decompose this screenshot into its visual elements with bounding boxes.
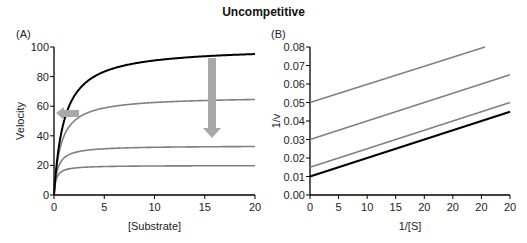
x-axis-label: 1/[S]: [399, 220, 422, 232]
x-tick-label: 20: [249, 201, 261, 213]
x-tick-label: 15: [199, 201, 211, 213]
y-tick-label: 100: [31, 41, 49, 53]
chart-canvas: 02040608010005101520[Substrate]Velocity …: [0, 0, 527, 243]
x-tick-label: 0: [51, 201, 57, 213]
arrow-down-icon: [203, 58, 221, 138]
panel-a-chart: 02040608010005101520[Substrate]Velocity: [14, 41, 261, 232]
y-tick-label: 40: [37, 130, 49, 142]
y-tick-label: 0.04: [284, 115, 305, 127]
y-tick-label: 0.02: [284, 152, 305, 164]
y-tick-label: 0.07: [284, 60, 305, 72]
x-tick-label: 10: [361, 201, 373, 213]
y-tick-label: 20: [37, 159, 49, 171]
y-tick-label: 0.06: [284, 78, 305, 90]
y-tick-label: 0.08: [284, 41, 305, 53]
y-tick-label: 0.00: [284, 189, 305, 201]
panel-b-chart: 0.000.010.020.030.040.050.060.070.080510…: [270, 41, 516, 232]
y-axis-label: 1/v: [270, 113, 282, 128]
series-line: [310, 47, 485, 103]
series-line: [310, 75, 510, 140]
y-axis-label: Velocity: [14, 102, 26, 140]
series-line: [310, 103, 510, 168]
x-tick-label: 5: [336, 201, 342, 213]
y-tick-label: 80: [37, 71, 49, 83]
series-line: [54, 54, 255, 195]
y-tick-label: 0.01: [284, 171, 305, 183]
x-tick-label: 20: [418, 201, 430, 213]
y-tick-label: 0: [43, 189, 49, 201]
x-tick-label: 15: [390, 201, 402, 213]
x-tick-label: 20: [447, 201, 459, 213]
series-line: [310, 112, 510, 177]
x-tick-label: 0: [307, 201, 313, 213]
x-axis-label: [Substrate]: [128, 220, 181, 232]
y-tick-label: 60: [37, 100, 49, 112]
y-tick-label: 0.05: [284, 97, 305, 109]
x-tick-label: 20: [504, 201, 516, 213]
x-tick-label: 5: [101, 201, 107, 213]
x-tick-label: 10: [148, 201, 160, 213]
series-line: [54, 166, 255, 195]
y-tick-label: 0.03: [284, 134, 305, 146]
x-tick-label: 20: [475, 201, 487, 213]
series-line: [54, 147, 255, 195]
